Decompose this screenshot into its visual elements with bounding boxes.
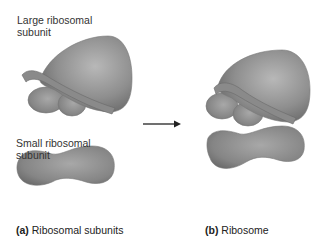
large-subunit-label: Large ribosomal subunit xyxy=(17,14,92,38)
large-subunit-label-line2: subunit xyxy=(17,26,92,38)
ribosome-shape xyxy=(206,50,310,168)
caption-a-letter: (a) xyxy=(16,224,29,236)
large-subunit-label-line1: Large ribosomal xyxy=(17,14,92,26)
caption-b-letter: (b) xyxy=(205,224,218,236)
small-subunit-label: Small ribosomal subunit xyxy=(16,137,91,161)
caption-a: (a) Ribosomal subunits xyxy=(16,224,123,236)
small-subunit-label-line2: subunit xyxy=(16,149,91,161)
caption-b-text: Ribosome xyxy=(218,224,268,236)
large-subunit-shape xyxy=(22,36,132,116)
small-subunit-label-line1: Small ribosomal xyxy=(16,137,91,149)
caption-b: (b) Ribosome xyxy=(205,224,269,236)
caption-a-text: Ribosomal subunits xyxy=(29,224,124,236)
arrow-icon xyxy=(143,121,181,128)
